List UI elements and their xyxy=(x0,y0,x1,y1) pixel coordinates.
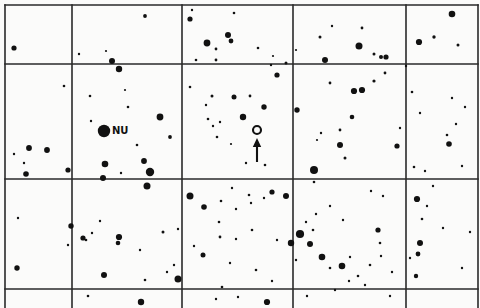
nu-star-marker xyxy=(98,125,110,137)
nu-star-label: NU xyxy=(112,126,128,136)
target-open-circle-icon xyxy=(253,126,261,134)
star-field-plot: NU xyxy=(0,0,480,308)
arrow-up-icon-head xyxy=(253,138,261,147)
star-chart: NU xyxy=(0,0,480,308)
annotation-markers xyxy=(0,0,480,308)
